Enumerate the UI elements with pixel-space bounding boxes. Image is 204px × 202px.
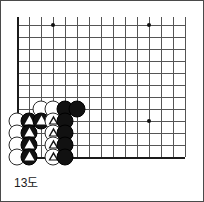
- grid-line-vertical: [149, 17, 150, 157]
- triangle-marker-icon: [24, 151, 34, 160]
- black-stone-marked: [21, 149, 38, 166]
- star-point: [147, 23, 151, 27]
- grid-line-vertical: [113, 17, 114, 157]
- triangle-marker-icon: [24, 127, 34, 136]
- grid-line-vertical: [185, 17, 186, 157]
- star-point: [51, 23, 55, 27]
- go-board: [1, 1, 204, 202]
- grid-line-vertical: [161, 17, 162, 157]
- go-diagram-figure: 13도: [0, 0, 204, 202]
- board-bottom-edge: [17, 157, 185, 159]
- grid-line-vertical: [101, 17, 102, 157]
- grid-line-vertical: [77, 17, 78, 157]
- black-stone: [57, 149, 74, 166]
- grid-line-vertical: [41, 17, 42, 157]
- grid-line-vertical: [173, 17, 174, 157]
- grid-line-vertical: [89, 17, 90, 157]
- grid-line-vertical: [137, 17, 138, 157]
- star-point: [147, 119, 151, 123]
- grid-line-vertical: [125, 17, 126, 157]
- triangle-marker-icon: [24, 139, 34, 148]
- diagram-caption: 13도: [14, 176, 38, 190]
